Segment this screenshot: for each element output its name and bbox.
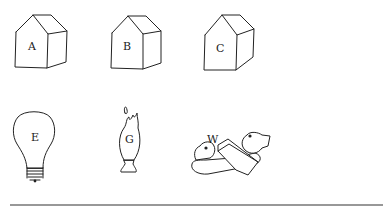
light-bulb-e: E	[13, 112, 54, 183]
house-a-label: A	[27, 40, 37, 53]
house-c: C	[204, 15, 254, 70]
gas-flame-g: G	[120, 107, 140, 172]
light-bulb-label: E	[31, 131, 39, 144]
faucet-label: W	[207, 133, 219, 146]
house-b: B	[111, 16, 161, 69]
faucet-w: W	[192, 132, 270, 175]
diagram-canvas: A B C E G W	[0, 0, 389, 215]
house-b-label: B	[123, 40, 131, 53]
gas-flame-label: G	[125, 133, 134, 146]
house-a: A	[15, 15, 67, 68]
house-c-label: C	[216, 42, 224, 55]
